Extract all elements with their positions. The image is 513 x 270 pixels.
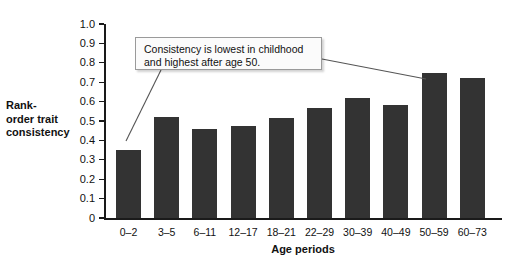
bar (269, 118, 294, 218)
y-tick-mark (99, 101, 104, 102)
y-tick-label: 0.8 (67, 57, 95, 68)
y-axis-line (104, 24, 106, 218)
callout-text-line-2: and highest after age 50. (144, 56, 319, 69)
y-tick-label: 0.4 (67, 135, 95, 146)
y-tick-label: 0.3 (67, 154, 95, 165)
y-tick-label: 0.5 (67, 116, 95, 127)
callout-text-line-1: Consistency is lowest in childhood (144, 43, 319, 56)
y-tick-label: 0.6 (67, 96, 95, 107)
bar (460, 78, 485, 218)
y-tick-label: 1.0 (67, 19, 95, 30)
y-tick-mark (99, 140, 104, 141)
bar (192, 129, 217, 218)
y-tick-label: 0.9 (67, 38, 95, 49)
bar-chart-figure: Rank- order trait consistency 1.00.90.80… (0, 0, 513, 270)
y-tick-label: 0.2 (67, 174, 95, 185)
x-axis-line (104, 218, 502, 220)
y-tick-mark (99, 198, 104, 199)
y-tick-mark (99, 120, 104, 121)
y-tick-mark (99, 23, 104, 24)
callout-box: Consistency is lowest in childhood and h… (135, 37, 322, 70)
y-tick-mark (99, 82, 104, 83)
bar (345, 98, 370, 218)
x-tick-label: 60–73 (450, 226, 494, 238)
bar (307, 108, 332, 218)
bar (154, 117, 179, 218)
bar (116, 150, 141, 218)
y-tick-label: 0.1 (67, 193, 95, 204)
y-tick-mark (99, 217, 104, 218)
bar (383, 105, 408, 218)
y-tick-mark (99, 43, 104, 44)
x-axis-title: Age periods (104, 243, 502, 255)
callout-text: Consistency is lowest in childhood and h… (144, 43, 319, 68)
y-tick-label: 0 (67, 213, 95, 224)
y-tick-label: 0.7 (67, 77, 95, 88)
y-tick-mark (99, 62, 104, 63)
bar (231, 126, 256, 218)
bar (422, 73, 447, 219)
y-tick-mark (99, 159, 104, 160)
y-tick-mark (99, 179, 104, 180)
